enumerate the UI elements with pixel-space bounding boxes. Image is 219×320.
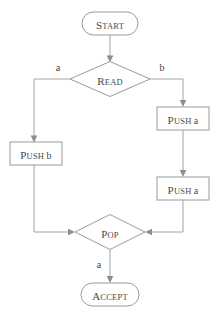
edge-label-pop-a: a xyxy=(97,260,101,270)
edge-push-a1-push-a2 xyxy=(180,130,187,177)
edge-read-push-a1 xyxy=(150,79,186,107)
flowchart-canvas: START READ PUSH b PUSH a PUSH a POP ACCE… xyxy=(0,0,219,320)
node-push-b-label: PUSH b xyxy=(20,146,51,162)
node-push-a2-label: PUSH a xyxy=(168,181,199,197)
node-pop-label: POP xyxy=(101,225,119,241)
edge-read-push-b xyxy=(31,79,70,143)
edge-start-read xyxy=(107,35,114,63)
edge-push-b-pop xyxy=(34,165,75,236)
node-push-a1-label: PUSH a xyxy=(168,111,199,127)
edge-push-a2-pop xyxy=(145,200,183,235)
edge-label-read-a: a xyxy=(56,63,60,73)
node-start-label: START xyxy=(96,16,124,32)
node-read-label: READ xyxy=(97,72,123,88)
edge-label-read-b: b xyxy=(160,63,165,73)
node-accept-label: ACCEPT xyxy=(92,287,128,303)
edge-pop-accept xyxy=(107,250,114,284)
